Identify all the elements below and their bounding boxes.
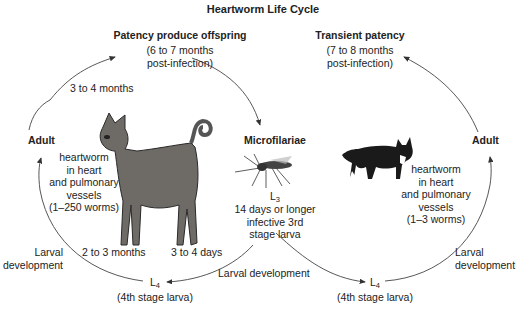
l3-desc-line: stage larva xyxy=(215,228,335,241)
dog-larval-dev-1: Larval xyxy=(5,246,63,259)
dog-l4-desc: (4th stage larva) xyxy=(105,291,205,304)
cat-host-line: vessels xyxy=(396,201,476,214)
diagram-title: Heartworm Life Cycle xyxy=(0,3,526,16)
cat-patency-time-2: post-infection) xyxy=(300,57,420,70)
larval-development-label: Larval development xyxy=(218,267,310,280)
dog-l4-subscript: 4 xyxy=(156,281,160,290)
l3-description: 14 days or longer infective 3rd stage la… xyxy=(215,203,335,241)
l3-to-dog-l4-time: 3 to 4 days xyxy=(171,246,222,259)
dog-patency-time-1: (6 to 7 months xyxy=(100,44,260,57)
cat-larval-dev-1: Larval xyxy=(455,246,484,259)
dog-larval-dev-2: development xyxy=(0,259,63,272)
dog-adult-to-patency-time: 3 to 4 months xyxy=(70,82,134,95)
microfilariae-label: Microfilariae xyxy=(230,134,320,147)
cat-host-line: in heart xyxy=(396,176,476,189)
dog-patency-heading: Patency produce offspring xyxy=(100,29,260,42)
cat-adult-label: Adult xyxy=(472,134,499,147)
cat-patency-time-1: (7 to 8 months xyxy=(300,44,420,57)
cat-host-line: heartworm xyxy=(396,163,476,176)
l3-desc-line: infective 3rd xyxy=(215,216,335,229)
dog-illustration xyxy=(95,105,215,255)
cat-l4-desc: (4th stage larva) xyxy=(325,291,425,304)
l3-desc-line: 14 days or longer xyxy=(215,203,335,216)
cat-patency-heading: Transient patency xyxy=(300,29,420,42)
cat-host-text: heartworm in heart and pulmonary vessels… xyxy=(396,163,476,226)
cat-host-line: (1–3 worms) xyxy=(396,213,476,226)
mosquito-illustration xyxy=(230,150,310,190)
arc-adult-left-upper xyxy=(29,100,50,130)
cat-host-line: and pulmonary xyxy=(396,188,476,201)
dog-l4-to-adult-time: 2 to 3 months xyxy=(82,246,146,259)
cat-larval-dev-2: development xyxy=(455,259,515,272)
dog-patency-time-2: post-infection) xyxy=(100,57,260,70)
dog-adult-label: Adult xyxy=(28,134,55,147)
cat-l4-subscript: 4 xyxy=(376,281,380,290)
